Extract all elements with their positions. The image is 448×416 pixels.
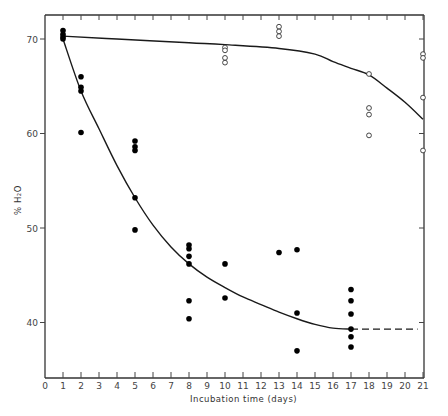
plot-frame [45,15,424,378]
x-tick-label: 15 [309,381,320,391]
open-circle-point [421,56,426,61]
x-tick-label: 1 [60,381,66,391]
open-circle-point [223,48,228,53]
open-circle-point [223,56,228,61]
x-tick-label: 8 [186,381,192,391]
fitted-curves [63,36,423,329]
filled-circle-point [294,310,300,316]
filled-circle-point [132,148,138,154]
x-tick-label: 12 [255,381,266,391]
x-tick-label: 5 [132,381,138,391]
x-tick-label: 18 [363,381,375,391]
x-tick-label: 20 [399,381,411,391]
filled-circle-point [348,344,354,350]
x-tick-label: 7 [168,381,174,391]
x-tick-label: 13 [273,381,284,391]
x-tick-label: 4 [114,381,120,391]
filled-circle-point [132,195,138,201]
open-circle-point [367,72,372,77]
x-tick-label: 14 [291,381,303,391]
filled-circle-point [132,227,138,233]
open-circle-point [367,106,372,111]
open-circle-point [277,34,282,39]
y-tick-label: 50 [27,224,39,234]
x-tick-label: 17 [345,381,356,391]
open-circle-point [223,60,228,65]
open-circle-point [277,24,282,29]
open-circle-point [277,29,282,34]
open-circle-point [421,148,426,153]
x-tick-label: 11 [237,381,248,391]
filled-circle-point [186,246,192,252]
x-ticks: 0123456789101112131415161718192021 [42,15,429,391]
filled-circle-point [60,36,66,42]
filled-circle-point [348,311,354,317]
filled-circle-point [186,316,192,322]
filled-circle-point [186,254,192,260]
filled-circles-fit [63,39,351,329]
filled-circle-point [186,298,192,304]
x-tick-label: 10 [219,381,231,391]
x-tick-label: 9 [204,381,210,391]
x-tick-label: 6 [150,381,156,391]
x-tick-label: 2 [78,381,84,391]
filled-circle-point [348,298,354,304]
filled-circle-point [222,261,228,267]
filled-circle-point [78,130,84,136]
open-circle-point [421,95,426,100]
x-tick-label: 3 [96,381,102,391]
filled-circle-point [348,334,354,340]
x-tick-label: 21 [417,381,428,391]
filled-circle-point [294,247,300,253]
open-circle-point [367,112,372,117]
y-tick-label: 60 [27,129,39,139]
y-tick-label: 70 [27,35,39,45]
y-tick-label: 40 [27,318,39,328]
filled-circle-point [78,74,84,80]
filled-circle-point [222,295,228,301]
filled-circle-point [186,261,192,267]
scatter-chart: 0123456789101112131415161718192021 40506… [0,0,448,416]
filled-circle-point [78,88,84,94]
filled-circle-point [276,250,282,256]
x-tick-label: 0 [42,381,48,391]
data-points [60,24,425,353]
filled-circle-point [294,348,300,354]
filled-circle-point [132,138,138,144]
x-tick-label: 16 [327,381,339,391]
y-ticks: 40506070 [27,35,424,329]
x-tick-label: 19 [381,381,393,391]
filled-circle-point [348,326,354,332]
y-axis-label: % H₂O [13,185,23,215]
open-circle-point [367,133,372,138]
filled-circle-point [348,287,354,293]
x-axis-label: Incubation time (days) [190,394,297,404]
